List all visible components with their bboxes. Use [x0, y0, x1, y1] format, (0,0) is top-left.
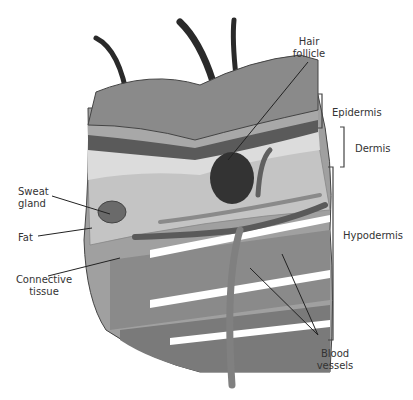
label-dermis: Dermis	[355, 143, 391, 155]
label-hair-follicle: Hair follicle	[283, 36, 335, 60]
label-sweat-gland-line2: gland	[18, 198, 49, 210]
label-blood-vessels: Blood vessels	[310, 348, 360, 372]
label-fat: Fat	[18, 232, 33, 244]
label-hair-follicle-line1: Hair	[283, 36, 335, 48]
skin-diagram	[0, 0, 413, 400]
label-hypodermis: Hypodermis	[343, 230, 403, 242]
label-sweat-gland: Sweat gland	[18, 186, 49, 210]
label-sweat-gland-line1: Sweat	[18, 186, 49, 198]
label-hair-follicle-line2: follicle	[283, 48, 335, 60]
label-blood-vessels-line1: Blood	[310, 348, 360, 360]
label-connective-tissue-line2: tissue	[12, 286, 76, 298]
label-blood-vessels-line2: vessels	[310, 360, 360, 372]
label-epidermis: Epidermis	[332, 107, 382, 119]
hair-follicle-bulb	[210, 152, 254, 204]
label-connective-tissue: Connective tissue	[12, 274, 76, 298]
label-connective-tissue-line1: Connective	[12, 274, 76, 286]
